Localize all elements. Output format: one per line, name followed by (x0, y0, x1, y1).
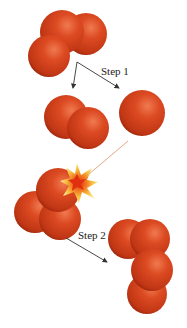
oxygen-atom-free (119, 90, 165, 136)
step2-arrow (66, 238, 107, 262)
oxygen-atom-sphere (28, 35, 70, 77)
step2-label: Step 2 (78, 229, 106, 241)
ozone-reactant-molecule (28, 10, 107, 77)
oxygen-atom-sphere (119, 90, 165, 136)
arrow-to-o2 (73, 62, 77, 88)
oxygen-product-step1-molecule (44, 95, 109, 149)
oxygen-atom-sphere (131, 249, 173, 291)
diagram-canvas (0, 0, 187, 328)
oxygen-atom-sphere (67, 107, 109, 149)
ozone-decomposition-diagram: Step 1 Step 2 (0, 0, 187, 328)
step1-label: Step 1 (101, 65, 129, 77)
oxygen-product-step2-b-molecule (127, 249, 173, 314)
